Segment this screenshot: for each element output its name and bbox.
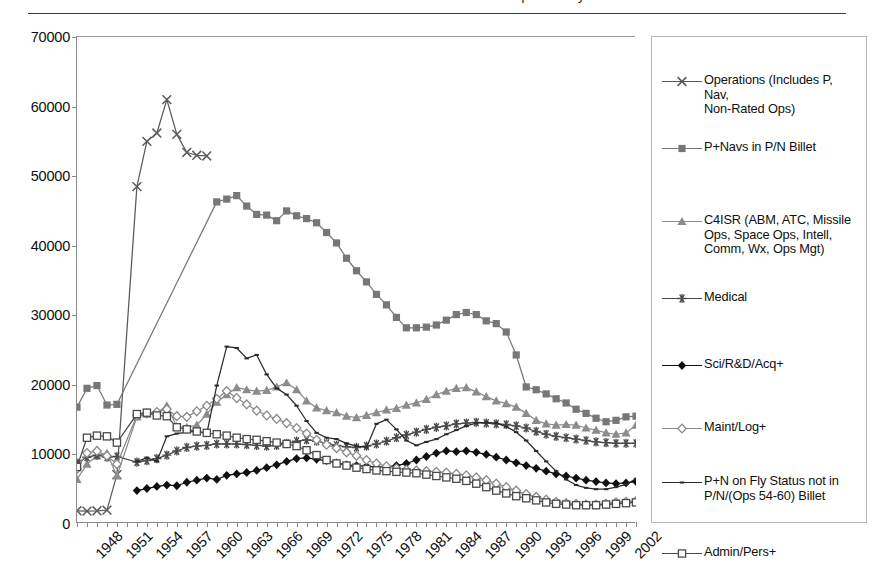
y-axis-tick-label: 10000 xyxy=(31,446,70,462)
legend-marker-open-square-icon xyxy=(660,546,704,561)
x-axis-tick-mark xyxy=(466,522,467,527)
y-axis-tick-mark xyxy=(72,107,77,108)
legend-item-2[interactable]: C4ISR (ABM, ATC, Missile Ops, Space Ops,… xyxy=(660,213,860,257)
x-axis-tick-mark xyxy=(267,522,268,527)
x-axis-tick-mark xyxy=(536,522,537,527)
legend-marker-x-cross-icon xyxy=(660,74,704,89)
x-axis-tick-mark xyxy=(416,522,417,527)
y-axis-tick-label: 60000 xyxy=(31,99,70,115)
x-axis-tick-mark xyxy=(177,522,178,527)
page-title: Officer Rated and Non-Rated Career Field… xyxy=(0,0,873,3)
legend-item-5[interactable]: Maint/Log+ xyxy=(660,420,860,436)
x-axis-tick-mark xyxy=(526,522,527,527)
x-axis-tick-mark xyxy=(586,522,587,527)
x-axis-tick-mark xyxy=(277,522,278,527)
x-axis-tick-mark xyxy=(546,522,547,527)
x-axis-tick-mark xyxy=(117,522,118,527)
x-axis-tick-mark xyxy=(406,522,407,527)
legend-item-label: Medical xyxy=(704,290,747,305)
y-axis-tick-mark xyxy=(72,385,77,386)
x-axis-tick-label: 1978 xyxy=(392,528,426,562)
x-axis-tick-mark xyxy=(396,522,397,527)
chart-page: Officer Rated and Non-Rated Career Field… xyxy=(0,0,873,585)
y-axis-tick-mark xyxy=(72,37,77,38)
legend-item-label: Sci/R&D/Acq+ xyxy=(704,357,784,372)
x-axis-tick-label: 1999 xyxy=(601,528,635,562)
x-axis-tick-mark xyxy=(386,522,387,527)
x-axis-tick-mark xyxy=(187,522,188,527)
legend-item-6[interactable]: P+N on Fly Status not in P/N/(Ops 54-60)… xyxy=(660,474,860,503)
legend-item-0[interactable]: Operations (Includes P, Nav, Non-Rated O… xyxy=(660,73,860,117)
x-axis-tick-label: 1984 xyxy=(452,528,486,562)
legend-item-label: Operations (Includes P, Nav, Non-Rated O… xyxy=(704,73,860,117)
x-axis-tick-mark xyxy=(616,522,617,527)
x-axis-tick-mark xyxy=(506,522,507,527)
legend-item-3[interactable]: Medical xyxy=(660,290,860,306)
x-axis-tick-mark xyxy=(426,522,427,527)
x-axis-tick-mark xyxy=(77,522,78,527)
y-axis-tick-mark xyxy=(72,176,77,177)
x-axis-tick-mark xyxy=(257,522,258,527)
x-axis-tick-mark xyxy=(247,522,248,527)
y-axis-tick-label: 50000 xyxy=(31,168,70,184)
x-axis-tick-mark xyxy=(87,522,88,527)
x-axis-tick-label: 1963 xyxy=(242,528,276,562)
legend-item-label: Maint/Log+ xyxy=(704,420,766,435)
x-axis-tick-mark xyxy=(366,522,367,527)
legend-item-label: P+N on Fly Status not in P/N/(Ops 54-60)… xyxy=(704,474,839,503)
x-axis-tick-mark xyxy=(446,522,447,527)
x-axis-tick-mark xyxy=(287,522,288,527)
y-axis-tick-mark xyxy=(72,246,77,247)
x-axis-tick-mark xyxy=(636,522,637,527)
y-axis-tick-mark xyxy=(72,454,77,455)
y-axis-tick-mark xyxy=(72,315,77,316)
legend-item-1[interactable]: P+Navs in P/N Billet xyxy=(660,140,860,156)
x-axis-tick-mark xyxy=(197,522,198,527)
x-axis-tick-label: 1990 xyxy=(511,528,545,562)
x-axis-tick-mark xyxy=(147,522,148,527)
x-axis-tick-mark xyxy=(516,522,517,527)
y-axis-tick-label: 20000 xyxy=(31,377,70,393)
plot-area: 010000200003000040000500006000070000 xyxy=(76,36,635,523)
header-divider xyxy=(28,13,846,14)
legend-item-4[interactable]: Sci/R&D/Acq+ xyxy=(660,357,860,373)
x-axis-tick-mark xyxy=(227,522,228,527)
x-axis-tick-label: 1987 xyxy=(482,528,516,562)
legend-item-7[interactable]: Admin/Pers+ xyxy=(660,545,860,561)
x-axis-tick-label: 1993 xyxy=(541,528,575,562)
x-axis-tick-mark xyxy=(137,522,138,527)
legend-item-label: C4ISR (ABM, ATC, Missile Ops, Space Ops,… xyxy=(704,213,851,257)
x-axis-tick-mark xyxy=(167,522,168,527)
x-axis-tick-label: 1960 xyxy=(212,528,246,562)
x-axis-tick-label: 1972 xyxy=(332,528,366,562)
y-axis-tick-label: 30000 xyxy=(31,307,70,323)
y-axis-tick-label: 0 xyxy=(62,516,70,532)
series-canvas xyxy=(77,37,636,524)
legend-item-label: P+Navs in P/N Billet xyxy=(704,140,816,155)
x-axis-tick-mark xyxy=(327,522,328,527)
legend-marker-open-diamond-icon xyxy=(660,421,704,436)
x-axis-tick-label: 1966 xyxy=(272,528,306,562)
x-axis-tick-label: 1951 xyxy=(122,528,156,562)
x-axis-tick-mark xyxy=(556,522,557,527)
legend-marker-filled-square-icon xyxy=(660,141,704,156)
x-axis-tick-mark xyxy=(307,522,308,527)
legend-marker-star6-icon xyxy=(660,291,704,306)
x-axis-tick-mark xyxy=(127,522,128,527)
x-axis-tick-mark xyxy=(217,522,218,527)
x-axis-tick-mark xyxy=(476,522,477,527)
y-axis-tick-label: 70000 xyxy=(31,29,70,45)
x-axis-tick-mark xyxy=(376,522,377,527)
x-axis-tick-mark xyxy=(496,522,497,527)
x-axis-tick-mark xyxy=(436,522,437,527)
y-axis-tick-label: 40000 xyxy=(31,238,70,254)
legend-marker-filled-triangle-icon xyxy=(660,214,704,229)
x-axis-tick-mark xyxy=(566,522,567,527)
x-axis-tick-mark xyxy=(456,522,457,527)
x-axis-tick-mark xyxy=(486,522,487,527)
x-axis-tick-mark xyxy=(347,522,348,527)
x-axis-tick-mark xyxy=(626,522,627,527)
legend-item-label: Admin/Pers+ xyxy=(704,545,776,560)
x-axis-tick-mark xyxy=(606,522,607,527)
x-axis-tick-mark xyxy=(297,522,298,527)
